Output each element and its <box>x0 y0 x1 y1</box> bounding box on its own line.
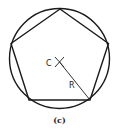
pentagon-inscribed-in-circle-figure: C R (c) <box>0 0 119 129</box>
geometry-diagram: C R (c) <box>0 0 119 129</box>
circumscribed-circle <box>10 9 110 109</box>
center-label: C <box>46 59 52 68</box>
radius-line <box>60 62 91 100</box>
figure-caption: (c) <box>53 115 66 125</box>
radius-label: R <box>69 81 75 90</box>
